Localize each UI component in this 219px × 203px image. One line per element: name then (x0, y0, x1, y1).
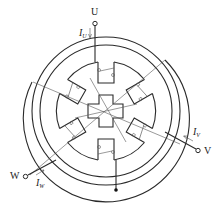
label-IU: IU (79, 28, 87, 39)
lead-W (28, 160, 56, 175)
arrow-IV-icon (184, 136, 194, 141)
label-U: U (91, 7, 98, 17)
winding-connections (30, 60, 180, 175)
terminal-V[interactable] (196, 148, 200, 152)
neutral-junction (114, 188, 118, 192)
arrow-IU-icon (89, 28, 92, 38)
label-W: W (10, 171, 19, 181)
lead-V (165, 132, 196, 149)
terminal-U[interactable] (93, 21, 97, 25)
arrow-IW-icon (36, 170, 44, 175)
motor-winding-diagram (0, 0, 219, 203)
label-V: V (204, 146, 211, 156)
label-IW: IW (36, 178, 44, 189)
terminal-W[interactable] (23, 174, 27, 178)
label-IV: IV (193, 127, 200, 138)
